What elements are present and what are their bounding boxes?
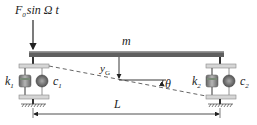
damper-c2-icon: [223, 75, 235, 87]
beam: [29, 51, 224, 57]
theta-label: θ: [165, 77, 171, 91]
theta-arc-icon: [162, 80, 164, 86]
mass-label: m: [122, 34, 131, 48]
force-label: F0sin Ω t: [14, 3, 60, 19]
yg-label: yG: [99, 62, 110, 77]
spring-k1-label: k1: [5, 74, 14, 90]
displaced-beam-line: [49, 66, 206, 96]
spring-k2-label: k2: [192, 74, 201, 90]
ground-hatch-left: [21, 104, 46, 107]
damper-c1-label: c1: [53, 74, 62, 90]
left-support: [19, 57, 49, 107]
ground-hatch-right: [208, 104, 233, 107]
beam-diagram: F0sin Ω t m k1 c1: [0, 0, 257, 125]
spring-k2-icon: [206, 75, 218, 87]
right-support: [206, 57, 236, 107]
damper-c2-label: c2: [240, 74, 249, 90]
length-label: L: [113, 97, 121, 111]
spring-k1-icon: [19, 75, 31, 87]
damper-c1-icon: [36, 75, 48, 87]
